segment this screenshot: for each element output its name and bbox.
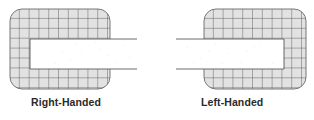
caption-left-handed: Left-Handed (201, 96, 263, 108)
left-handed-figure: Left-Handed (157, 0, 314, 120)
inserted-bar (30, 39, 138, 69)
inserted-bar (175, 39, 284, 69)
right-handed-figure: Right-Handed (0, 0, 157, 120)
caption-right-handed: Right-Handed (31, 96, 101, 108)
